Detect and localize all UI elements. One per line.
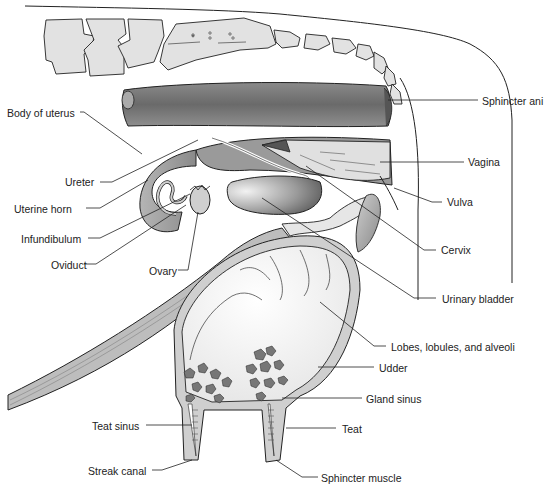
- label-udder: Udder: [379, 362, 408, 374]
- label-gland-sinus: Gland sinus: [366, 393, 421, 405]
- urinary-bladder-shape: [227, 176, 321, 214]
- label-vagina: Vagina: [468, 156, 500, 168]
- label-lobes-lobules-alveoli: Lobes, lobules, and alveoli: [391, 341, 515, 353]
- label-sphincter-ani: Sphincter ani: [482, 95, 543, 107]
- label-streak-canal: Streak canal: [88, 465, 146, 477]
- label-uterine-horn: Uterine horn: [14, 203, 72, 215]
- label-teat-sinus: Teat sinus: [92, 420, 139, 432]
- label-ovary: Ovary: [149, 265, 177, 277]
- label-teat: Teat: [342, 423, 362, 435]
- label-sphincter-muscle: Sphincter muscle: [321, 472, 402, 484]
- rectum: [122, 83, 392, 127]
- label-vulva: Vulva: [447, 196, 473, 208]
- label-cervix: Cervix: [441, 244, 471, 256]
- label-body-of-uterus: Body of uterus: [7, 107, 75, 119]
- label-ureter: Ureter: [65, 176, 94, 188]
- label-urinary-bladder: Urinary bladder: [442, 293, 514, 305]
- uterine-horn: [140, 150, 210, 232]
- label-infundibulum: Infundibulum: [21, 233, 81, 245]
- label-oviduct: Oviduct: [51, 259, 87, 271]
- reproductive-anatomy-diagram: Body of uterus Ureter Uterine horn Infun…: [0, 0, 549, 488]
